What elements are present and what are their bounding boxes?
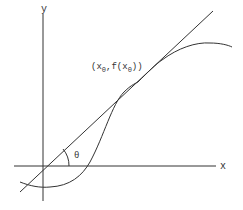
x-axis-label: x — [220, 161, 226, 172]
angle-arc — [63, 149, 69, 166]
tangent-point-label: (x0,f(x0)) — [91, 62, 143, 74]
angle-theta-label: θ — [74, 151, 79, 161]
y-axis-label: y — [41, 4, 47, 15]
diagram-canvas: y x θ (x0,f(x0)) — [0, 0, 243, 210]
tangent-line — [20, 11, 213, 192]
